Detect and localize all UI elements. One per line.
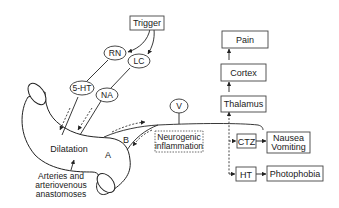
rn-node: RN	[104, 46, 126, 60]
na-node: NA	[96, 88, 118, 102]
neurogenic-inflammation-box: Neurogenic inflammation	[155, 131, 203, 152]
vessel-caption-line3: anastomoses	[36, 189, 87, 199]
nausea-vomiting-box: Nausea Vomiting	[267, 132, 310, 153]
ht-box: HT	[236, 167, 256, 181]
vomiting-label: Vomiting	[271, 142, 306, 152]
thalamus-label: Thalamus	[224, 99, 264, 109]
ctz-box: CTZ	[237, 134, 256, 148]
photophobia-label: Photophobia	[270, 169, 321, 179]
5ht-to-vessel-line	[62, 97, 78, 135]
thalamus-box: Thalamus	[221, 96, 266, 112]
rn-to-5ht-line	[86, 60, 108, 82]
trigeminal-fiber-a	[104, 125, 158, 137]
pain-label: Pain	[236, 35, 254, 45]
trigeminal-fiber-main	[158, 124, 263, 131]
neurogenic-label-line2: inflammation	[155, 141, 203, 151]
5ht-node: 5-HT	[70, 81, 94, 95]
trigger-to-rn-arrow	[128, 29, 150, 52]
pain-box: Pain	[222, 31, 268, 48]
a-label: A	[105, 150, 111, 160]
cortex-label: Cortex	[230, 68, 257, 78]
v-to-b-dashed-arrow	[133, 130, 152, 146]
b-label: B	[123, 135, 129, 145]
lc-to-na-line	[111, 68, 130, 88]
na-to-vessel-line	[80, 101, 101, 135]
photophobia-box: Photophobia	[267, 166, 323, 181]
ht-label: HT	[240, 170, 252, 180]
cortex-box: Cortex	[221, 64, 266, 81]
trigger-box: Trigger	[130, 16, 164, 30]
5ht-label: 5-HT	[73, 83, 92, 93]
rn-label: RN	[109, 48, 121, 58]
migraine-diagram: Trigger RN LC 5-HT NA V Dilatation A B A…	[0, 0, 339, 208]
v-label: V	[176, 101, 182, 111]
ctz-label: CTZ	[238, 137, 256, 147]
trigger-label: Trigger	[133, 18, 161, 28]
dilatation-label: Dilatation	[50, 144, 88, 154]
lc-label: LC	[134, 56, 145, 66]
na-label: NA	[101, 90, 113, 100]
lc-node: LC	[128, 54, 150, 68]
v-node: V	[170, 99, 188, 113]
